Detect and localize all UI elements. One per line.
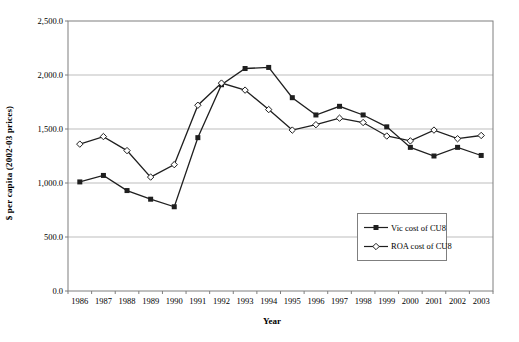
legend: Vic cost of CU8 ROA cost of CU8: [357, 213, 447, 261]
y-axis-tick-label: 500.0: [0, 232, 63, 242]
data-point-vic: [337, 104, 342, 109]
data-point-vic: [313, 112, 318, 117]
data-point-vic: [243, 66, 248, 71]
data-point-vic: [172, 204, 177, 209]
x-axis-tick-label: 1986: [67, 296, 93, 306]
data-point-roa: [171, 161, 177, 167]
data-point-roa: [77, 141, 83, 147]
x-axis-tick-label: 1993: [232, 296, 258, 306]
filled-square-marker-icon: [364, 223, 388, 232]
data-point-roa: [313, 121, 319, 127]
data-point-vic: [479, 153, 484, 158]
data-point-vic: [290, 95, 295, 100]
x-axis-tick-label: 1992: [208, 296, 234, 306]
data-point-vic: [148, 197, 153, 202]
x-axis-tick-label: 1991: [185, 296, 211, 306]
data-point-vic: [77, 179, 82, 184]
x-axis-tick-label: 2003: [468, 296, 494, 306]
x-axis-tick-label: 2001: [421, 296, 447, 306]
data-point-vic: [361, 112, 366, 117]
data-point-roa: [431, 127, 437, 133]
data-point-roa: [454, 136, 460, 142]
x-axis-tick-label: 1990: [161, 296, 187, 306]
data-point-vic: [384, 124, 389, 129]
x-axis-tick-label: 1998: [350, 296, 376, 306]
x-axis-tick-label: 1997: [327, 296, 353, 306]
data-point-vic: [408, 145, 413, 150]
data-point-roa: [336, 115, 342, 121]
data-point-roa: [360, 119, 366, 125]
plot-area: [0, 0, 519, 342]
legend-label-roa: ROA cost of CU8: [391, 241, 452, 251]
data-point-vic: [101, 173, 106, 178]
x-axis-tick-label: 1999: [374, 296, 400, 306]
x-axis-tick-label: 1987: [90, 296, 116, 306]
x-axis-tick-label: 1994: [256, 296, 282, 306]
y-axis-tick-label: 2,500.0: [0, 16, 63, 26]
x-axis-tick-label: 1989: [138, 296, 164, 306]
data-point-roa: [100, 133, 106, 139]
x-axis-tick-label: 1995: [279, 296, 305, 306]
y-axis-title: $ per capita (2002-03 prices): [4, 106, 14, 221]
legend-label-vic: Vic cost of CU8: [391, 223, 446, 233]
series-line-vic: [80, 67, 481, 206]
data-point-vic: [455, 145, 460, 150]
data-point-vic: [125, 188, 130, 193]
data-point-roa: [407, 138, 413, 144]
data-point-roa: [384, 133, 390, 139]
x-axis-tick-label: 2000: [397, 296, 423, 306]
data-point-vic: [266, 65, 271, 70]
data-point-vic: [431, 154, 436, 159]
legend-item-roa: ROA cost of CU8: [364, 241, 446, 251]
x-axis-tick-label: 2002: [445, 296, 471, 306]
open-diamond-marker-icon: [364, 242, 388, 251]
data-point-roa: [478, 132, 484, 138]
data-point-vic: [195, 135, 200, 140]
x-axis-tick-label: 1996: [303, 296, 329, 306]
y-axis-tick-label: 0.0: [0, 286, 63, 296]
x-axis-tick-label: 1988: [114, 296, 140, 306]
series-line-roa: [80, 83, 481, 177]
x-axis-title: Year: [263, 316, 281, 326]
y-axis-tick-label: 2,000.0: [0, 70, 63, 80]
legend-item-vic: Vic cost of CU8: [364, 223, 446, 233]
chart: 0.0500.01,000.01,500.02,000.02,500.01986…: [0, 0, 519, 342]
